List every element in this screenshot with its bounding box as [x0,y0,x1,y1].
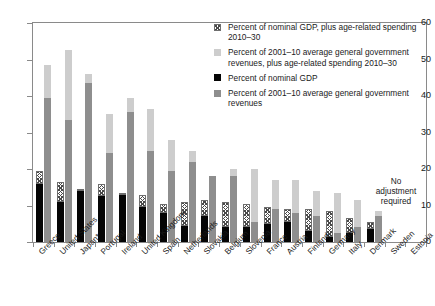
y-tick-mark [27,242,32,243]
bar-group [157,23,178,242]
bar-segment-gdp-plus-age-related [284,209,291,222]
bar-segment-revenues-plus-age-related [251,169,258,222]
bar-group [54,23,75,242]
bar-segment-revenues [147,151,154,242]
no-adjustment-line-3: required [381,196,411,206]
bar-segment-revenues [44,98,51,242]
legend-label: Percent of nominal GDP, plus age-related… [228,22,426,42]
y-tick-mark [27,23,32,24]
legend-item: Percent of 2001–10 average general gover… [214,88,426,108]
bar-group [136,23,157,242]
chart-legend: Percent of nominal GDP, plus age-related… [214,22,426,113]
y-tick-mark [27,60,32,61]
legend-label: Percent of 2001–10 average general gover… [228,88,426,108]
bar-group [74,23,95,242]
bar-segment-gdp-plus-age-related [160,204,167,213]
bar-segment-revenues-plus-age-related [168,140,175,171]
y-tick-mark [27,133,32,134]
bar-group [33,23,54,242]
legend-swatch-hatch [214,24,221,31]
bar-group [95,23,116,242]
bar-segment-revenues [189,162,196,242]
bar-segment-revenues-plus-age-related [147,109,154,151]
bar-segment-revenues-plus-age-related [44,65,51,98]
no-adjustment-line-1: No [391,176,402,186]
bar-segment-revenues-plus-age-related [334,193,341,233]
bar-segment-gdp-plus-age-related [57,182,64,202]
bar-segment-revenues [127,112,134,242]
bar-segment-gdp-plus-age-related [36,171,43,184]
bar-segment-revenues [65,120,72,242]
bar-segment-revenues-plus-age-related [106,114,113,152]
bar-segment-gdp-plus-age-related [139,195,146,208]
bar-segment-gdp [367,229,374,242]
bar-segment-revenues [230,176,237,242]
bar-segment-gdp-plus-age-related [243,204,250,228]
legend-item: Percent of nominal GDP [214,73,426,83]
bar-segment-revenues-plus-age-related [292,180,299,213]
legend-label: Percent of nominal GDP [228,73,426,83]
bar-segment-gdp [36,184,43,242]
x-tick-mark [33,243,34,247]
bar-segment-revenues-plus-age-related [65,50,72,119]
y-tick-mark [27,96,32,97]
legend-label: Percent of 2001–10 average general gover… [228,47,426,67]
bar-segment-revenues-plus-age-related [272,180,279,209]
bar-segment-gdp-plus-age-related [367,222,374,229]
no-adjustment-line-2: adjustment [376,186,417,196]
bar-segment-gdp [181,226,188,242]
legend-swatch-lightgray [214,49,221,56]
bar-segment-revenues-plus-age-related [313,191,320,217]
legend-swatch-black [214,74,221,81]
bar-segment-gdp-plus-age-related [264,207,271,223]
bar-segment-gdp-plus-age-related [201,200,208,216]
y-tick-mark [27,206,32,207]
bar-segment-revenues-plus-age-related [85,74,92,83]
bar-segment-gdp-plus-age-related [98,184,105,197]
legend-item: Percent of 2001–10 average general gover… [214,47,426,67]
bar-segment-revenues-plus-age-related [189,151,196,162]
bar-segment-gdp-plus-age-related [305,209,312,231]
bar-segment-revenues-plus-age-related [127,98,134,113]
bar-group [116,23,137,242]
legend-swatch-darkgray [214,90,221,97]
bar-segment-revenues-plus-age-related [230,169,237,176]
legend-item: Percent of nominal GDP, plus age-related… [214,22,426,42]
bar-segment-revenues-plus-age-related [354,200,361,227]
bar-segment-gdp-plus-age-related [222,202,229,228]
bar-segment-revenues [106,153,113,242]
no-adjustment-required-annotation: No adjustment required [366,176,426,206]
y-tick-mark [27,169,32,170]
